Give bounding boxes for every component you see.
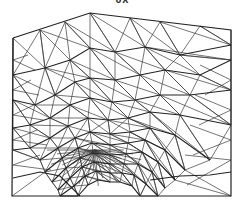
mesh-edge xyxy=(30,125,68,126)
mesh-layer-line xyxy=(13,172,80,196)
mesh-edge xyxy=(13,38,45,68)
mesh-edge xyxy=(150,95,160,112)
mesh-edge xyxy=(50,138,58,148)
mesh-edge xyxy=(13,128,30,148)
mesh-edge xyxy=(70,60,115,80)
mesh-edge xyxy=(180,26,200,55)
mesh-edge xyxy=(55,95,70,105)
mesh-edge xyxy=(75,138,78,148)
mesh-edge xyxy=(58,148,62,158)
mesh-edge xyxy=(58,190,60,196)
mesh-edge xyxy=(140,75,190,95)
mesh-edge xyxy=(108,120,110,134)
mesh-edge xyxy=(108,102,112,120)
mesh-edge xyxy=(13,90,39,95)
mesh-edge xyxy=(160,95,231,125)
mesh-edge xyxy=(175,115,180,135)
mesh-edge xyxy=(13,165,51,170)
mesh-edge xyxy=(40,30,45,68)
mesh-edge xyxy=(90,48,115,80)
mesh-edge xyxy=(152,162,158,172)
mesh-edge xyxy=(132,175,134,186)
mesh-edge xyxy=(210,125,231,160)
mesh-edge xyxy=(70,82,75,105)
mesh-edge xyxy=(45,68,90,78)
mesh-edge xyxy=(128,100,135,118)
mesh-edge xyxy=(13,105,34,115)
mesh-edge xyxy=(180,55,200,75)
mesh-edge xyxy=(70,60,90,78)
mesh-layer-line xyxy=(13,112,231,150)
mesh-edge xyxy=(13,80,31,90)
mesh-edge xyxy=(45,148,58,172)
mesh-edge xyxy=(165,55,180,70)
mesh-edge xyxy=(50,95,55,118)
mesh-edge xyxy=(13,100,50,118)
mesh-edge xyxy=(193,140,231,155)
mesh-layer-line xyxy=(13,90,231,128)
mesh-edge xyxy=(145,128,150,140)
mesh-edge xyxy=(13,55,28,60)
mesh-edges xyxy=(12,13,231,196)
mesh-edge xyxy=(13,115,43,120)
mesh-edge xyxy=(68,105,70,126)
mesh-edge xyxy=(52,182,58,190)
mesh-edge xyxy=(112,80,115,102)
mesh-edge xyxy=(150,128,185,170)
finite-element-mesh xyxy=(0,0,244,207)
mesh-edge xyxy=(88,98,90,118)
mesh-edge xyxy=(70,60,75,82)
mesh-edge xyxy=(65,22,70,60)
mesh-edge xyxy=(40,160,45,172)
mesh-edge xyxy=(70,105,88,118)
mesh-edge xyxy=(40,30,70,60)
mesh-edge xyxy=(175,170,185,180)
mesh-edge xyxy=(50,118,68,126)
mesh-edge xyxy=(180,55,231,60)
mesh-edge xyxy=(124,154,126,164)
mesh-edge xyxy=(160,70,165,95)
mesh-edge xyxy=(110,173,132,186)
mesh-edge xyxy=(30,105,35,125)
mesh-edge xyxy=(185,155,231,160)
mesh-edge xyxy=(190,125,231,140)
mesh-edge xyxy=(185,170,231,196)
mesh-layer-lines xyxy=(13,45,231,196)
mesh-edge xyxy=(115,18,130,52)
mesh-edge xyxy=(75,82,90,98)
mesh-edge xyxy=(142,140,145,152)
mesh-edge xyxy=(74,185,88,186)
mesh-edge xyxy=(115,80,160,95)
mesh-edge xyxy=(122,164,124,173)
mesh-edge xyxy=(140,184,146,196)
mesh-edge xyxy=(120,173,122,182)
mesh-edge xyxy=(158,188,165,196)
mesh-edge xyxy=(145,140,175,180)
mesh-edge xyxy=(180,95,190,115)
mesh-edge xyxy=(13,155,40,165)
mesh-edge xyxy=(70,178,74,186)
mesh-edge xyxy=(13,60,35,70)
mesh-edge xyxy=(185,160,210,170)
mesh-edge xyxy=(158,150,165,162)
mesh-edge xyxy=(88,118,90,132)
mesh-edge xyxy=(13,128,50,138)
mesh-edge xyxy=(165,180,175,188)
mesh-edge xyxy=(128,118,130,132)
mesh-edge xyxy=(12,172,45,196)
mesh-edge xyxy=(138,152,142,164)
mesh-edge xyxy=(55,95,90,98)
mesh-edge xyxy=(90,13,115,52)
mesh-edge xyxy=(175,180,231,196)
